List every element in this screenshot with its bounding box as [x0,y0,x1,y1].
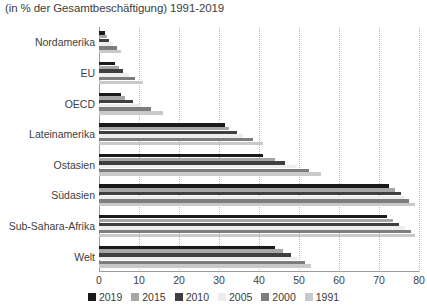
x-axis-tick-label: 10 [133,274,145,286]
bar [99,172,321,175]
x-axis-tick-label: 80 [413,274,425,286]
x-axis-tick-group: 01020304050607080 [99,274,419,290]
x-axis-tick-label: 40 [253,274,265,286]
legend-label: 2000 [272,291,295,303]
legend-label: 2019 [99,291,122,303]
legend-swatch-icon [131,293,139,301]
bar-chart: (in % der Gesamtbeschäftigung) 1991-2019… [0,0,427,308]
gridline-80 [419,27,420,272]
legend-swatch-icon [175,293,183,301]
bar-group [99,241,419,272]
bars-layer [99,27,419,272]
x-axis-tick-label: 60 [333,274,345,286]
plot-area [99,27,419,272]
y-axis-label: Ostasien [0,159,95,171]
legend-item-2010[interactable]: 2010 [175,291,209,303]
y-axis-label: Welt [0,251,95,263]
legend-swatch-icon [88,293,96,301]
y-axis-label: OECD [0,98,95,110]
legend-item-2000[interactable]: 2000 [261,291,295,303]
bar [99,203,415,206]
legend-label: 2005 [229,291,252,303]
legend-item-1991[interactable]: 1991 [305,291,339,303]
legend-swatch-icon [261,293,269,301]
bar-group [99,119,419,150]
bar [99,264,311,267]
chart-title: (in % der Gesamtbeschäftigung) 1991-2019 [5,2,224,14]
bar [99,111,163,114]
bar-group [99,150,419,181]
legend-item-2005[interactable]: 2005 [218,291,252,303]
x-axis-tick-label: 30 [213,274,225,286]
x-axis-tick-label: 20 [173,274,185,286]
y-axis-label: Nordamerika [0,36,95,48]
bar-group [99,211,419,242]
x-axis-tick-label: 50 [293,274,305,286]
legend-label: 1991 [316,291,339,303]
y-axis-label: Sub-Sahara-Afrika [0,220,95,232]
bar-group [99,58,419,89]
legend-swatch-icon [305,293,313,301]
y-axis-label: Südasien [0,189,95,201]
bar [99,50,121,53]
legend-item-2015[interactable]: 2015 [131,291,165,303]
bar-group [99,180,419,211]
bar-group [99,27,419,58]
legend-label: 2015 [142,291,165,303]
legend-swatch-icon [218,293,226,301]
legend-item-2019[interactable]: 2019 [88,291,122,303]
legend-label: 2010 [186,291,209,303]
y-axis-label-group: NordamerikaEUOECDLateinamerikaOstasienSü… [0,27,95,272]
bar [99,234,415,237]
y-axis-label: Lateinamerika [0,128,95,140]
chart-legend: 201920152010200520001991 [0,291,427,303]
bar [99,142,263,145]
bar-group [99,88,419,119]
x-axis-tick-label: 70 [373,274,385,286]
x-axis-line [99,271,419,272]
y-axis-label: EU [0,67,95,79]
x-axis-tick-label: 0 [96,274,102,286]
bar [99,81,143,84]
